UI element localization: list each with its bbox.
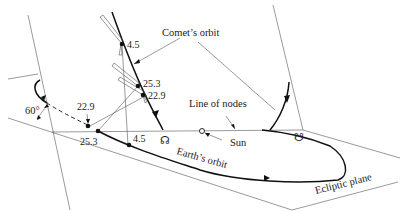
comet-orbit-diagram: Comet’s orbit Line of nodes Sun Earth’s … [0, 0, 405, 213]
comet-tails [100, 15, 147, 103]
comet-orbit-left-loop [35, 80, 47, 103]
line-of-nodes-label: Line of nodes [189, 98, 247, 109]
comet-label-pointer [134, 38, 180, 64]
earth-229-pointer-head [86, 119, 90, 124]
sun-marker [200, 129, 205, 134]
inclination-angle-label: 60° [25, 105, 40, 116]
comets-orbit-label: Comet’s orbit [162, 27, 220, 38]
comet-position-label: 4.5 [127, 39, 140, 50]
descending-node-symbol: ☋ [294, 132, 304, 143]
comet-position-label: 25.3 [143, 78, 161, 89]
ascending-node-symbol: ☊ [160, 135, 170, 146]
ecliptic-plane-label: Ecliptic plane [314, 171, 373, 196]
comet-orbit-right [270, 82, 289, 130]
nodes-label-pointer-head [231, 124, 235, 129]
comet-position-label: 22.9 [148, 90, 166, 101]
earths-orbit-label: Earth’s orbit [175, 145, 228, 170]
earth-position-label: 25.3 [80, 136, 98, 147]
earth-position-label: 4.5 [133, 133, 146, 144]
earth-position-label: 22.9 [77, 101, 95, 112]
sun-label: Sun [230, 137, 247, 148]
angle-arrow-top [44, 104, 49, 108]
comet-label-pointer-head [134, 59, 140, 64]
